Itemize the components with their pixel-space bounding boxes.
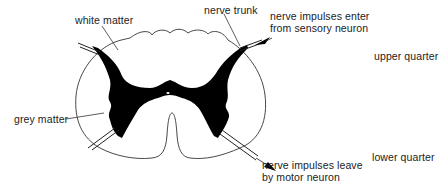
motor-label-line1: nerve impulses leave bbox=[262, 159, 363, 171]
motor-label-line2: by motor neuron bbox=[262, 171, 363, 183]
spinal-cord-diagram bbox=[0, 0, 447, 194]
lower-quarter-label: lower quarter bbox=[372, 151, 435, 163]
sensory-arrow-head bbox=[255, 37, 270, 45]
sensory-label-line2: from sensory neuron bbox=[270, 22, 369, 34]
sensory-neuron-label: nerve impulses enter from sensory neuron bbox=[270, 10, 369, 34]
sensory-label-line1: nerve impulses enter bbox=[270, 10, 369, 22]
motor-neuron-label: nerve impulses leave by motor neuron bbox=[262, 159, 363, 183]
upper-quarter-label: upper quarter bbox=[374, 50, 438, 62]
white-matter-label: white matter bbox=[75, 14, 133, 26]
nerve-trunk-label: nerve trunk bbox=[204, 4, 258, 16]
right-dorsal-root bbox=[240, 40, 262, 51]
central-canal bbox=[166, 92, 169, 94]
grey-matter-label: grey matter bbox=[14, 113, 68, 125]
